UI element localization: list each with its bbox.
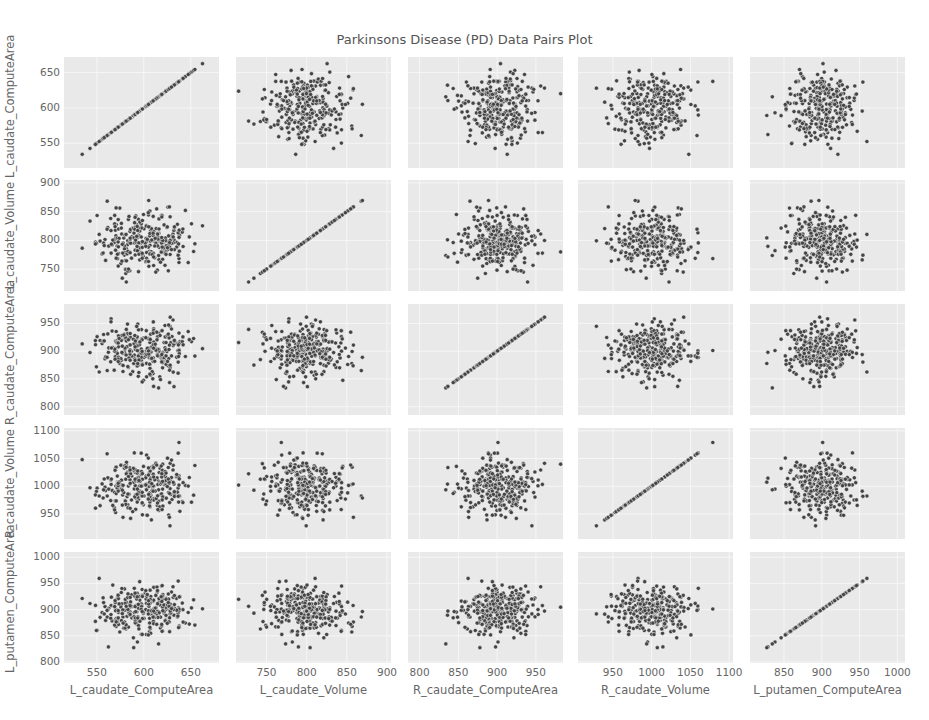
x-tick-label: 550 [77,666,117,678]
x-tick-label: 1100 [709,666,749,678]
panel-L_caudate_ComputeArea-vs-L_caudate_Volume [236,57,391,168]
y-axis-label: L_putamen_ComputeArea [3,542,17,673]
y-tick-label: 650 [24,66,60,78]
x-tick-label: 1000 [877,666,917,678]
panel-R_caudate_ComputeArea-vs-R_caudate_ComputeArea [408,304,563,415]
x-axis-label: L_putamen_ComputeArea [750,683,905,697]
x-tick-label: 800 [400,666,440,678]
x-tick-label: 850 [764,666,804,678]
panel-L_caudate_Volume-vs-R_caudate_ComputeArea [408,180,563,291]
panel-L_caudate_Volume-vs-L_putamen_ComputeArea [750,180,905,291]
y-tick-label: 600 [24,101,60,113]
panel-L_putamen_ComputeArea-vs-R_caudate_ComputeArea [408,552,563,663]
x-axis-label: L_caudate_ComputeArea [64,683,219,697]
y-tick-label: 850 [24,372,60,384]
x-tick-label: 950 [516,666,556,678]
y-tick-label: 950 [24,507,60,519]
x-tick-label: 950 [840,666,880,678]
x-tick-label: 1000 [632,666,672,678]
x-tick-label: 850 [438,666,478,678]
chart-title: Parkinsons Disease (PD) Data Pairs Plot [0,32,929,47]
panel-L_caudate_Volume-vs-R_caudate_Volume [578,180,733,291]
y-tick-label: 900 [24,344,60,356]
y-tick-label: 800 [24,233,60,245]
y-tick-label: 800 [24,655,60,667]
x-axis-label: R_caudate_ComputeArea [408,683,563,697]
panel-L_caudate_Volume-vs-L_caudate_Volume [236,180,391,291]
y-tick-label: 950 [24,576,60,588]
panel-L_caudate_ComputeArea-vs-L_putamen_ComputeArea [750,57,905,168]
panel-R_caudate_Volume-vs-L_caudate_ComputeArea [64,428,219,539]
y-tick-label: 550 [24,136,60,148]
x-axis-label: L_caudate_Volume [236,683,391,697]
y-axis-label: R_caudate_ComputeArea [3,294,17,425]
y-tick-label: 800 [24,400,60,412]
x-tick-label: 650 [171,666,211,678]
panel-R_caudate_Volume-vs-L_putamen_ComputeArea [750,428,905,539]
x-tick-label: 1050 [670,666,710,678]
panel-R_caudate_Volume-vs-R_caudate_Volume [578,428,733,539]
x-axis-label: R_caudate_Volume [578,683,733,697]
panel-L_caudate_ComputeArea-vs-L_caudate_ComputeArea [64,57,219,168]
x-tick-label: 900 [802,666,842,678]
panel-R_caudate_ComputeArea-vs-L_caudate_Volume [236,304,391,415]
y-tick-label: 850 [24,205,60,217]
panel-R_caudate_Volume-vs-L_caudate_Volume [236,428,391,539]
panel-L_putamen_ComputeArea-vs-L_caudate_Volume [236,552,391,663]
panel-L_caudate_Volume-vs-L_caudate_ComputeArea [64,180,219,291]
y-tick-label: 1050 [24,452,60,464]
x-tick-label: 950 [593,666,633,678]
y-axis-label: L_caudate_ComputeArea [3,47,17,178]
panel-L_putamen_ComputeArea-vs-L_putamen_ComputeArea [750,552,905,663]
y-tick-label: 900 [24,176,60,188]
y-tick-label: 950 [24,316,60,328]
x-tick-label: 800 [287,666,327,678]
panel-R_caudate_ComputeArea-vs-R_caudate_Volume [578,304,733,415]
panel-L_caudate_ComputeArea-vs-R_caudate_Volume [578,57,733,168]
panel-R_caudate_ComputeArea-vs-L_caudate_ComputeArea [64,304,219,415]
y-tick-label: 900 [24,603,60,615]
x-tick-label: 750 [247,666,287,678]
y-tick-label: 1000 [24,479,60,491]
panel-L_putamen_ComputeArea-vs-L_caudate_ComputeArea [64,552,219,663]
panel-R_caudate_ComputeArea-vs-L_putamen_ComputeArea [750,304,905,415]
x-tick-label: 900 [477,666,517,678]
y-tick-label: 850 [24,629,60,641]
x-tick-label: 850 [327,666,367,678]
x-tick-label: 600 [124,666,164,678]
panel-R_caudate_Volume-vs-R_caudate_ComputeArea [408,428,563,539]
panel-L_putamen_ComputeArea-vs-R_caudate_Volume [578,552,733,663]
y-tick-label: 1000 [24,550,60,562]
y-tick-label: 750 [24,262,60,274]
panel-L_caudate_ComputeArea-vs-R_caudate_ComputeArea [408,57,563,168]
y-tick-label: 1100 [24,424,60,436]
